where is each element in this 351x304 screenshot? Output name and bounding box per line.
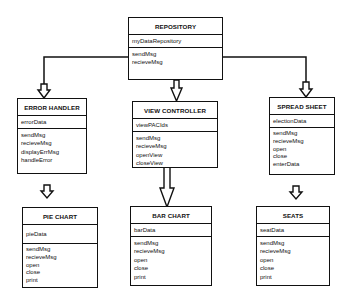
operation: handleError bbox=[21, 156, 83, 164]
operation: enterData bbox=[273, 161, 331, 169]
class-operations: sendMsg recieveMsg displayErrMsg handleE… bbox=[18, 128, 86, 167]
operation: open bbox=[134, 256, 208, 264]
operation: sendMsg bbox=[273, 130, 331, 138]
class-name: PIE CHART bbox=[23, 208, 97, 224]
attribute: errorData bbox=[21, 119, 83, 125]
class-name: ERROR HANDLER bbox=[18, 99, 86, 115]
operation: recieveMsg bbox=[136, 142, 214, 150]
class-attributes: electionData bbox=[270, 114, 334, 127]
operation: close bbox=[260, 264, 326, 272]
operation: print bbox=[260, 273, 326, 281]
operation: sendMsg bbox=[260, 239, 326, 247]
operation: print bbox=[134, 273, 208, 281]
class-attributes: pieData bbox=[23, 224, 97, 243]
class-error-handler: ERROR HANDLER errorData sendMsg recieveM… bbox=[17, 98, 87, 174]
operation: close bbox=[273, 153, 331, 161]
class-attributes: errorData bbox=[18, 115, 86, 128]
operation: sendMsg bbox=[134, 239, 208, 247]
class-repository: REPOSITORY myDataRepository sendMsg reci… bbox=[128, 17, 223, 80]
class-operations: sendMsg recieveMsg open close print bbox=[23, 243, 97, 287]
attribute: seatData bbox=[260, 227, 326, 233]
class-spread-sheet: SPREAD SHEET electionData sendMsg reciev… bbox=[269, 97, 335, 175]
class-operations: sendMsg recieveMsg bbox=[129, 47, 222, 69]
class-operations: sendMsg recieveMsg open close print bbox=[257, 236, 329, 283]
operation: recieveMsg bbox=[273, 138, 331, 146]
class-attributes: seatData bbox=[257, 223, 329, 236]
class-pie-chart: PIE CHART pieData sendMsg recieveMsg ope… bbox=[22, 207, 98, 288]
attribute: myDataRepository bbox=[132, 38, 219, 44]
attribute: barData bbox=[134, 227, 208, 233]
operation: close bbox=[134, 264, 208, 272]
operation: recieveMsg bbox=[21, 139, 83, 147]
operation: sendMsg bbox=[26, 246, 94, 254]
attribute: viewPACIds bbox=[136, 122, 214, 128]
operation: close bbox=[26, 269, 94, 277]
operation: closeView bbox=[136, 159, 214, 167]
operation: recieveMsg bbox=[134, 247, 208, 255]
class-attributes: barData bbox=[131, 223, 211, 236]
operation: open bbox=[273, 146, 331, 154]
class-seats: SEATS seatData sendMsg recieveMsg open c… bbox=[256, 206, 330, 286]
class-name: SPREAD SHEET bbox=[270, 98, 334, 114]
class-operations: sendMsg recieveMsg openView closeView bbox=[133, 131, 217, 170]
class-operations: sendMsg recieveMsg open close print bbox=[131, 236, 211, 283]
operation: sendMsg bbox=[132, 50, 219, 58]
attribute: electionData bbox=[273, 118, 331, 124]
operation: recieveMsg bbox=[132, 58, 219, 66]
operation: sendMsg bbox=[21, 131, 83, 139]
operation: print bbox=[26, 277, 94, 285]
class-operations: sendMsg recieveMsg open close enterData bbox=[270, 127, 334, 171]
class-name: REPOSITORY bbox=[129, 18, 222, 34]
class-attributes: myDataRepository bbox=[129, 34, 222, 47]
operation: open bbox=[260, 256, 326, 264]
operation: recieveMsg bbox=[260, 247, 326, 255]
operation: recieveMsg bbox=[26, 254, 94, 262]
class-name: BAR CHART bbox=[131, 207, 211, 223]
class-name: SEATS bbox=[257, 207, 329, 223]
class-bar-chart: BAR CHART barData sendMsg recieveMsg ope… bbox=[130, 206, 212, 286]
attribute: pieData bbox=[26, 231, 94, 237]
operation: displayErrMsg bbox=[21, 148, 83, 156]
class-name: VIEW CONTROLLER bbox=[133, 102, 217, 118]
class-attributes: viewPACIds bbox=[133, 118, 217, 131]
operation: sendMsg bbox=[136, 134, 214, 142]
class-view-controller: VIEW CONTROLLER viewPACIds sendMsg recie… bbox=[132, 101, 218, 168]
operation: open bbox=[26, 262, 94, 270]
operation: openView bbox=[136, 151, 214, 159]
